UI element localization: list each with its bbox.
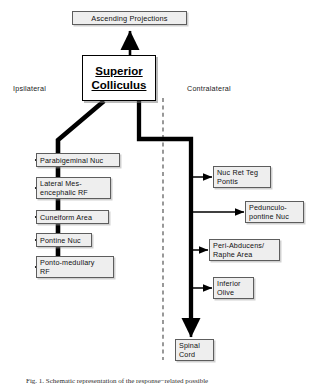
node-label: Pontine Nuc xyxy=(40,236,81,245)
node-lateral-mesencephalic-rf[interactable]: Lateral Mes- encephalic RF xyxy=(36,177,111,199)
label-contralateral: Contralateral xyxy=(187,84,231,93)
node-peri-abducens-raphe-area[interactable]: Peri-Abducens/ Raphe Area xyxy=(209,239,280,261)
node-spinal-cord[interactable]: Spinal Cord xyxy=(175,339,214,361)
node-label: Nuc Ret Teg Pontis xyxy=(217,168,258,186)
node-pedunculopontine-nuc[interactable]: Pedunculo- pontine Nuc xyxy=(245,201,304,223)
figure-panel: Ascending Projections Superior Colliculu… xyxy=(0,0,316,389)
label-ipsilateral: Ipsilateral xyxy=(13,84,46,93)
node-cuneiform-area[interactable]: Cuneiform Area xyxy=(36,210,109,224)
node-inferior-olive[interactable]: Inferior Olive xyxy=(213,277,254,299)
hub-line-1: Superior xyxy=(95,64,142,78)
node-ponto-medullary-rf[interactable]: Ponto-medullary RF xyxy=(36,256,114,278)
node-ascending-projections[interactable]: Ascending Projections xyxy=(72,11,187,25)
node-label: Ponto-medullary RF xyxy=(40,258,95,276)
node-label: Cuneiform Area xyxy=(40,213,92,222)
node-label: Lateral Mes- encephalic RF xyxy=(40,179,88,197)
node-label: Ascending Projections xyxy=(91,14,167,23)
node-nuc-ret-teg-pontis[interactable]: Nuc Ret Teg Pontis xyxy=(213,166,271,188)
node-label: Peri-Abducens/ Raphe Area xyxy=(213,241,264,259)
figure-caption: Fig. 1. Schematic representation of the … xyxy=(26,377,298,386)
node-label: Inferior Olive xyxy=(217,279,241,297)
node-superior-colliculus[interactable]: Superior Colliculus xyxy=(82,55,156,101)
node-label: Spinal Cord xyxy=(179,341,200,359)
trunk-contralateral xyxy=(139,101,191,330)
node-pontine-nuc[interactable]: Pontine Nuc xyxy=(36,233,92,247)
node-parabigeminal-nuc[interactable]: Parabigeminal Nuc xyxy=(36,153,120,167)
node-label: Parabigeminal Nuc xyxy=(40,156,103,165)
hub-line-2: Colliculus xyxy=(92,78,147,92)
node-label: Pedunculo- pontine Nuc xyxy=(249,203,289,221)
